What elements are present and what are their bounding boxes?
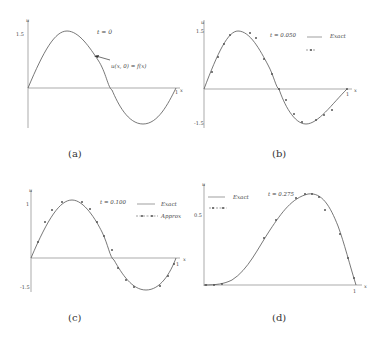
time-label: t = 0 <box>97 28 112 35</box>
x-tick-label: 1 <box>176 261 179 267</box>
curve-exact <box>31 200 176 290</box>
annotation: u(x, 0) = f(x) <box>111 63 146 70</box>
y-tick-label: 0.5 <box>194 212 202 218</box>
approx-markers <box>37 201 175 288</box>
x-axis-label: x <box>354 87 357 93</box>
y-axis-label: u <box>201 19 204 25</box>
y-tick-bottom: -1.5 <box>20 284 30 290</box>
legend-approx-label: Approx <box>160 213 182 220</box>
legend-approx-marker <box>141 215 143 217</box>
y-tick-bottom: -1.5 <box>194 120 204 126</box>
x-axis-label: x <box>183 256 186 262</box>
time-label: t = 0.275 <box>268 191 295 197</box>
chart-b: u 1.5 -1.5 x 1 t = 0.050 Exact <box>192 0 384 140</box>
time-label: t = 0.100 <box>100 199 127 205</box>
legend-exact-label: Exact <box>160 201 177 207</box>
legend-exact-label: Exact <box>232 194 249 200</box>
curve-exact <box>204 194 356 285</box>
y-tick-label: 1.5 <box>16 31 24 37</box>
panel-a: u 1.5 x 1 t = 0 u(x, 0) = f(x) <box>0 0 192 140</box>
chart-c: u 1 -1.5 x 1 t = 0.100 Exact Approx <box>0 170 192 300</box>
x-tick-label: 1 <box>353 288 356 294</box>
approx-markers <box>211 32 348 123</box>
y-axis-label: u <box>26 17 29 23</box>
y-tick-top: 1 <box>26 201 29 207</box>
legend-approx-marker <box>310 49 312 51</box>
y-tick-top: 1.5 <box>196 28 204 34</box>
y-axis-label: u <box>202 181 205 187</box>
x-tick-label: 1 <box>346 91 349 97</box>
legend-approx-marker <box>212 207 214 209</box>
panel-b: u 1.5 -1.5 x 1 t = 0.050 Exact <box>192 0 384 140</box>
chart-d: u 0.5 x 1 t = 0.275 Exact <box>192 170 384 300</box>
legend-exact-label: Exact <box>329 33 346 39</box>
x-axis-label: x <box>180 87 183 93</box>
legend-approx-marker <box>222 207 224 209</box>
x-axis-label: x <box>364 283 367 289</box>
panel-c: u 1 -1.5 x 1 t = 0.100 Exact Approx <box>0 170 192 300</box>
panel-d: u 0.5 x 1 t = 0.275 Exact <box>192 170 384 300</box>
caption-d: (d) <box>272 312 286 323</box>
curve-exact <box>204 31 347 124</box>
y-axis-label: u <box>29 187 32 193</box>
caption-c: (c) <box>68 312 81 323</box>
approx-markers <box>205 193 355 286</box>
chart-a: u 1.5 x 1 t = 0 u(x, 0) = f(x) <box>0 0 192 140</box>
legend-approx-marker <box>151 215 153 217</box>
time-label: t = 0.050 <box>270 32 297 38</box>
caption-a: (a) <box>68 148 82 159</box>
caption-b: (b) <box>272 148 286 159</box>
curve-f <box>28 31 176 124</box>
